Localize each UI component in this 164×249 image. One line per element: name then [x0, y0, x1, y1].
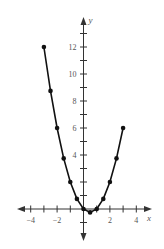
x-tick-label: −4 [26, 216, 35, 225]
x-tick-label: −2 [53, 216, 62, 225]
y-tick-label: 4 [73, 151, 77, 160]
chart-canvas: −4−2244681012 x y [0, 0, 164, 249]
data-point-marker [88, 210, 93, 215]
y-tick-label: 12 [69, 43, 77, 52]
y-tick-label: 6 [73, 124, 77, 133]
x-axis-left-arrow-icon [17, 206, 25, 212]
x-tick-label: 2 [108, 216, 112, 225]
data-point-marker [101, 197, 106, 202]
x-axis-label: x [146, 213, 151, 223]
data-point-marker [48, 89, 53, 94]
data-point-marker [114, 156, 119, 161]
y-tick-label: 10 [69, 70, 77, 79]
data-point-marker [108, 180, 113, 185]
x-tick-label: 4 [134, 216, 138, 225]
x-axis-right-arrow-icon [144, 206, 152, 212]
data-point-marker [55, 126, 60, 131]
data-point-marker [81, 207, 86, 212]
y-axis-down-arrow-icon [81, 233, 87, 241]
data-point-marker [61, 156, 66, 161]
data-point-marker [94, 207, 99, 212]
parabola-chart: −4−2244681012 x y [0, 0, 164, 249]
data-point-marker [42, 45, 47, 50]
y-tick-label: 8 [73, 97, 77, 106]
y-axis-up-arrow-icon [81, 17, 87, 25]
y-axis-label: y [88, 15, 93, 25]
data-point-marker [68, 180, 73, 185]
data-point-marker [75, 197, 80, 202]
data-point-marker [121, 126, 126, 131]
